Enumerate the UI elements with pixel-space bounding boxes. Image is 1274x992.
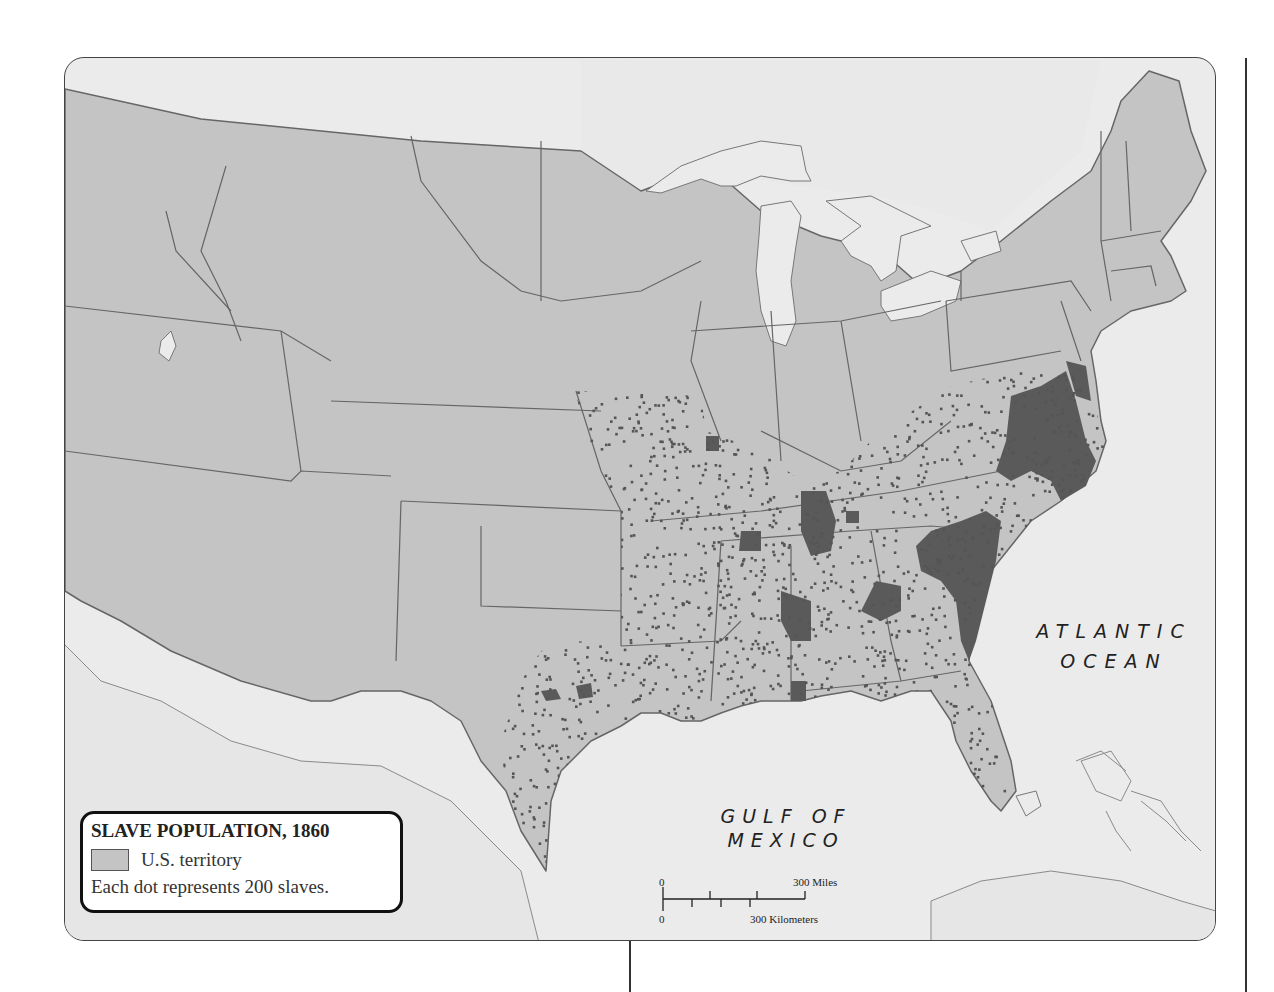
page-rule-right: [1245, 58, 1247, 992]
legend-note: Each dot represents 200 slaves.: [91, 876, 400, 898]
scale-ruler-icon: [650, 887, 860, 913]
map-legend: SLAVE POPULATION, 1860 U.S. territory Ea…: [80, 811, 403, 913]
legend-title: SLAVE POPULATION, 1860: [91, 820, 400, 842]
caribbean-islands: [1076, 751, 1186, 851]
scale-bar: 0 300 Miles 0 300 Kilometers: [650, 873, 860, 933]
map-frame: ATLANTIC OCEAN GULF OF MEXICO: [64, 57, 1216, 941]
legend-label-us-territory: U.S. territory: [141, 849, 242, 871]
scale-km-label: 300 Kilometers: [750, 913, 818, 925]
atlantic-label-line2: OCEAN: [1029, 649, 1199, 673]
atlantic-ocean-label: ATLANTIC OCEAN: [1029, 619, 1199, 673]
legend-swatch-us-territory: [91, 849, 129, 871]
page-rule-bottom: [629, 941, 631, 992]
gulf-of-mexico-label: GULF OF MEXICO: [661, 804, 911, 852]
map-canvas: [64, 57, 1216, 941]
legend-item-us-territory: U.S. territory: [91, 848, 400, 872]
atlantic-label-line1: ATLANTIC: [1029, 619, 1199, 643]
scale-km-zero: 0: [659, 913, 665, 925]
